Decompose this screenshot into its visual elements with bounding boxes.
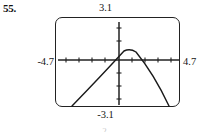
- x-min-label: -4.7: [25, 56, 54, 67]
- next-line-fragment: 2: [0, 127, 201, 132]
- y-min-label: -3.1: [0, 109, 201, 120]
- graph-plot-area: [56, 18, 181, 108]
- calculator-screen-frame: [55, 17, 180, 107]
- y-max-label: 3.1: [0, 2, 201, 13]
- parabola-curve: [72, 50, 169, 106]
- calculator-graph-figure: 55. 3.1 -4.7 4.7 -3.1: [0, 0, 201, 135]
- x-max-label: 4.7: [183, 56, 196, 67]
